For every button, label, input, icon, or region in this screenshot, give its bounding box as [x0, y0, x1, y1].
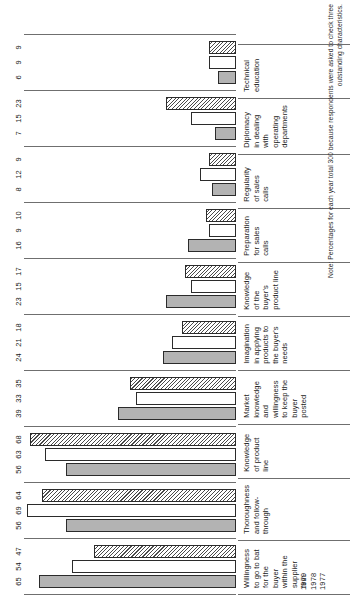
bar-group: 393335 [24, 371, 236, 427]
bar-1977: 68 [24, 433, 236, 446]
bar-rect: 9 [209, 153, 236, 166]
bar-value-label: 12 [15, 170, 23, 178]
bar-rect: 9 [209, 56, 236, 69]
bar-value-label: 15 [15, 282, 23, 290]
bar-1978: 54 [24, 560, 236, 573]
bar-rect: 39 [118, 407, 236, 420]
bar-value-label: 10 [15, 211, 23, 219]
bar-value-label: 18 [15, 323, 23, 331]
bar-rect: 16 [188, 239, 236, 252]
bar-group: 566368 [24, 427, 236, 483]
bar-1978: 9 [24, 56, 236, 69]
bar-rect: 17 [185, 265, 236, 278]
category-label: Imagination in applying products to the … [238, 317, 350, 371]
bar-group: 71523 [24, 91, 236, 147]
bar-value-label: 24 [15, 353, 23, 361]
bar-rect: 23 [166, 295, 236, 308]
bar-value-label: 33 [15, 394, 23, 402]
bar-1979: 56 [24, 519, 236, 532]
bar-rect: 12 [200, 168, 236, 181]
bar-rect: 65 [39, 575, 236, 588]
bar-value-label: 17 [15, 267, 23, 275]
bar-rect: 10 [206, 209, 236, 222]
bar-value-label: 7 [15, 131, 23, 135]
bar-1977: 9 [24, 41, 236, 54]
bar-value-label: 65 [15, 577, 23, 585]
bar-value-label: 16 [15, 241, 23, 249]
bar-1978: 33 [24, 392, 236, 405]
bar-rect: 68 [30, 433, 236, 446]
bar-1977: 9 [24, 153, 236, 166]
bar-value-label: 8 [15, 187, 23, 191]
bar-1977: 18 [24, 321, 236, 334]
bar-rect: 7 [215, 127, 236, 140]
bar-rect: 23 [166, 97, 236, 110]
bar-value-label: 9 [15, 60, 23, 64]
rotated-figure-container: 1979 1978 1977 6554475669645663683933352… [0, 0, 358, 603]
bar-rect: 24 [163, 351, 236, 364]
bar-rect: 63 [45, 448, 236, 461]
bar-value-label: 23 [15, 99, 23, 107]
bar-1978: 15 [24, 112, 236, 125]
bar-group: 242118 [24, 315, 236, 371]
bar-rect: 21 [172, 336, 236, 349]
bar-value-label: 9 [15, 228, 23, 232]
bar-value-label: 21 [15, 338, 23, 346]
bar-group: 699 [24, 34, 236, 91]
bar-rect: 56 [66, 463, 236, 476]
bar-rect: 18 [182, 321, 237, 334]
bar-rect: 56 [66, 519, 236, 532]
bar-value-label: 9 [15, 157, 23, 161]
bar-1979: 65 [24, 575, 236, 588]
bar-1979: 7 [24, 127, 236, 140]
bar-1977: 47 [24, 545, 236, 558]
bar-1979: 6 [24, 71, 236, 84]
bar-1978: 69 [24, 504, 236, 517]
bar-1977: 23 [24, 97, 236, 110]
bar-group: 566964 [24, 483, 236, 539]
bar-group: 16910 [24, 203, 236, 259]
bar-chart-figure: 1979 1978 1977 6554475669645663683933352… [0, 0, 358, 603]
bar-rect: 33 [136, 392, 236, 405]
bar-group: 655447 [24, 539, 236, 595]
bar-value-label: 6 [15, 75, 23, 79]
bar-1979: 16 [24, 239, 236, 252]
bar-1977: 17 [24, 265, 236, 278]
bar-rect: 15 [191, 280, 236, 293]
bar-1978: 12 [24, 168, 236, 181]
chart-note: Note: Percentages for each year total 30… [327, 4, 344, 304]
bar-1978: 21 [24, 336, 236, 349]
category-label: Thoroughness and follow-through [238, 479, 350, 541]
bar-value-label: 35 [15, 379, 23, 387]
category-label: Knowledge of product line [238, 425, 350, 479]
bar-rect: 54 [72, 560, 236, 573]
bar-1979: 24 [24, 351, 236, 364]
bar-group: 8129 [24, 147, 236, 203]
bar-value-label: 15 [15, 114, 23, 122]
bar-1977: 35 [24, 377, 236, 390]
bar-value-label: 39 [15, 409, 23, 417]
bar-value-label: 9 [15, 45, 23, 49]
bar-rect: 64 [42, 489, 236, 502]
bar-rect: 9 [209, 41, 236, 54]
bar-value-label: 23 [15, 297, 23, 305]
bar-1978: 63 [24, 448, 236, 461]
bar-rect: 9 [209, 224, 236, 237]
bar-1978: 9 [24, 224, 236, 237]
bar-rect: 8 [212, 183, 236, 196]
bar-value-label: 64 [15, 491, 23, 499]
category-label: Market knowledge and willingness to keep… [238, 371, 350, 425]
bar-1977: 64 [24, 489, 236, 502]
bar-rect: 69 [27, 504, 236, 517]
bar-1979: 23 [24, 295, 236, 308]
bar-value-label: 54 [15, 562, 23, 570]
bar-1979: 56 [24, 463, 236, 476]
bar-value-label: 68 [15, 435, 23, 443]
bar-1979: 8 [24, 183, 236, 196]
bar-rect: 15 [191, 112, 236, 125]
bar-1977: 10 [24, 209, 236, 222]
bar-1978: 15 [24, 280, 236, 293]
bar-value-label: 56 [15, 465, 23, 473]
bar-rect: 6 [218, 71, 236, 84]
bar-rect: 47 [94, 545, 236, 558]
